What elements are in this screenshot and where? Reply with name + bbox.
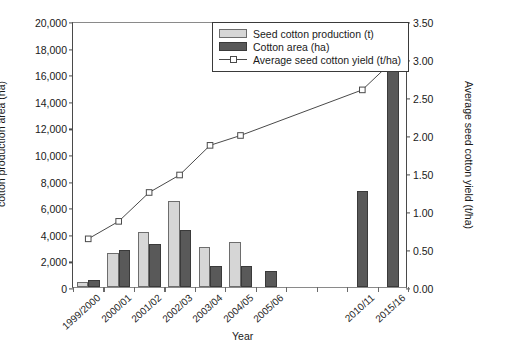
x-tick-label: 2004/05 [221,292,255,324]
right-tick-label: 0.50 [413,245,433,257]
y-tick-label: 16,000 [35,70,67,82]
x-tick-label: 2005/06 [251,292,285,324]
yield-line-segment [241,90,363,136]
x-tick-label: 1999/2000 [60,292,102,332]
y-tick-label: 6,000 [41,203,67,215]
x-axis-title: Year [232,330,253,342]
legend-item: Average seed cotton yield (t/ha) [219,53,401,66]
chart-legend: Seed cotton production (t)Cotton area (h… [212,22,409,72]
x-tick-label: 2003/04 [190,292,224,324]
x-tick-label: 2002/03 [160,292,194,324]
yield-data-point [116,219,122,225]
yield-data-point [207,143,213,149]
y-axis-title-area: Seed cotton production (t/year)/ cotton … [0,0,28,288]
yield-data-point [238,133,244,139]
right-axis-title: Average seed cotton yield (t/ha) [463,81,475,229]
y-tick-label: 10,000 [35,150,67,162]
legend-swatch-line-icon [219,55,247,64]
y-tick-label: 14,000 [35,97,67,109]
x-tick-label: 2010/11 [343,292,377,324]
right-tick-label: 2.00 [413,131,433,143]
x-tick-mark [408,287,409,292]
right-tick-label: 1.50 [413,169,433,181]
legend-marker-icon [230,56,237,63]
right-tick-label: 1.00 [413,207,433,219]
yield-data-point [146,190,152,196]
legend-label: Cotton area (ha) [253,41,329,53]
y-tick-label: 12,000 [35,123,67,135]
y-tick-label: 0 [61,283,67,295]
yield-data-point [177,172,183,178]
right-tick-label: 2.50 [413,93,433,105]
legend-item: Seed cotton production (t) [219,27,401,40]
y-axis-title: Seed cotton production (t/year)/ cotton … [0,24,7,264]
right-tick-label: 3.00 [413,55,433,67]
yield-data-point [360,87,366,93]
x-tick-label: 2001/02 [129,292,163,324]
legend-swatch-prod-icon [219,29,247,38]
yield-line-segment [119,192,149,221]
chart-figure: Seed cotton production (t/year)/ cotton … [0,0,525,352]
yield-line-segment [149,175,179,192]
y-axis-title-line2: cotton production area (ha) [0,81,6,207]
x-tick-label: 2015/16 [373,292,407,324]
y-tick-label: 4,000 [41,230,67,242]
right-tick-label: 3.50 [413,17,433,29]
y-tick-label: 8,000 [41,177,67,189]
yield-line-segment [210,135,240,145]
yield-line-segment [180,145,210,175]
y-tick-label: 18,000 [35,44,67,56]
legend-label: Average seed cotton yield (t/ha) [253,54,401,66]
y-tick-label: 20,000 [35,17,67,29]
legend-label: Seed cotton production (t) [253,28,374,40]
y-tick-label: 2,000 [41,256,67,268]
right-tick-label: 0.00 [413,283,433,295]
legend-swatch-area-icon [219,42,247,51]
yield-data-point [85,236,91,242]
legend-item: Cotton area (ha) [219,40,401,53]
x-tick-label: 2000/01 [99,292,133,324]
yield-line-segment [88,221,118,238]
